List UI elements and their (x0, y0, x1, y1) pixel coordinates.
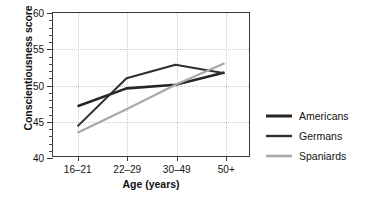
y-tick-label: 50 (33, 80, 44, 91)
x-axis-title: Age (years) (52, 178, 250, 190)
legend-item-germans[interactable]: Germans (266, 128, 364, 144)
legend-line-swatch (266, 151, 292, 161)
plot-inner: 4045505560 16–2122–2930–4950+ (53, 13, 249, 156)
x-tick-label: 50+ (218, 164, 235, 175)
series-lines (53, 13, 249, 157)
chart-legend: AmericansGermansSpaniards (266, 108, 364, 168)
legend-label: Americans (299, 110, 349, 122)
x-tick-label: 22–29 (113, 164, 141, 175)
x-tick (127, 156, 128, 161)
y-tick-major (47, 158, 53, 159)
x-tick (78, 156, 79, 161)
x-tick (177, 156, 178, 161)
legend-item-spaniards[interactable]: Spaniards (266, 148, 364, 164)
legend-label: Germans (299, 130, 342, 142)
legend-label: Spaniards (299, 150, 346, 162)
x-tick-label: 30–49 (163, 164, 191, 175)
y-tick-label: 40 (33, 153, 44, 164)
y-tick-label: 45 (33, 116, 44, 127)
y-tick-label: 60 (33, 8, 44, 19)
chart-figure: Conscientiousness score 4045505560 16–21… (0, 0, 367, 200)
x-tick (226, 156, 227, 161)
legend-item-americans[interactable]: Americans (266, 108, 364, 124)
plot-area: 4045505560 16–2122–2930–4950+ (52, 12, 250, 157)
legend-line-swatch (266, 111, 292, 121)
series-line-americans (77, 73, 224, 107)
y-tick-label: 55 (33, 44, 44, 55)
x-tick-label: 16–21 (64, 164, 92, 175)
legend-line-swatch (266, 131, 292, 141)
